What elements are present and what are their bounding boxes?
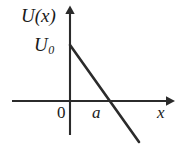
potential-line-series	[70, 45, 139, 142]
potential-line	[70, 45, 139, 142]
x-intercept-label: a	[92, 104, 101, 121]
y-intercept-subscript: 0	[48, 43, 55, 57]
potential-energy-figure: U(x) U0 0 a x	[0, 0, 179, 153]
origin-label: 0	[57, 104, 66, 121]
x-axis-label: x	[157, 104, 165, 121]
y-intercept-symbol: U	[34, 34, 48, 55]
x-axis-arrowhead	[166, 96, 175, 106]
y-axis	[65, 6, 74, 136]
y-intercept-label: U0	[34, 35, 54, 56]
y-axis-label: U(x)	[21, 6, 56, 25]
y-axis-arrowhead	[65, 6, 74, 15]
